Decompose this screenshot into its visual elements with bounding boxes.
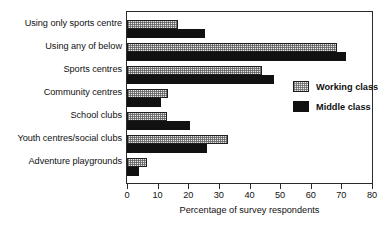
category-label: Sports centres [0,64,122,75]
category-label: Community centres [0,87,122,98]
x-tick-label: 80 [367,190,377,200]
legend-swatch-working-class [293,81,309,92]
bar-middle-class [127,167,139,176]
category-label: Youth centres/social clubs [0,133,122,144]
bar-chart-figure: Using only sports centre Using any of be… [0,0,389,227]
x-tick-mark [311,184,312,189]
x-tick-mark [341,184,342,189]
x-tick-label: 60 [306,190,316,200]
bar-working-class [127,158,147,167]
category-label: Adventure playgrounds [0,156,122,167]
bar-middle-class [127,98,161,107]
legend-item-middle-class: Middle class [293,100,371,113]
bar-middle-class [127,52,346,61]
x-tick-mark [280,184,281,189]
bar-working-class [127,135,228,144]
x-tick-label: 50 [275,190,285,200]
bar-working-class [127,43,337,52]
x-tick-label: 30 [214,190,224,200]
bar-middle-class [127,121,190,130]
x-tick-label: 70 [336,190,346,200]
x-tick-label: 10 [153,190,163,200]
x-tick-mark [127,184,128,189]
x-tick-label: 20 [183,190,193,200]
category-label: School clubs [0,110,122,121]
bar-working-class [127,20,178,29]
x-tick-mark [372,184,373,189]
category-label: Using any of below [0,41,122,52]
legend-swatch-middle-class [293,101,309,112]
bar-middle-class [127,29,205,38]
bar-working-class [127,112,167,121]
bar-middle-class [127,144,207,153]
legend-label: Middle class [316,102,371,112]
x-tick-label: 40 [244,190,254,200]
x-axis-title: Percentage of survey respondents [126,205,373,215]
x-axis: Percentage of survey respondents 0102030… [126,184,373,227]
x-tick-mark [158,184,159,189]
category-axis-labels: Using only sports centre Using any of be… [0,11,122,184]
bar-working-class [127,66,262,75]
x-tick-label: 0 [124,190,129,200]
plot-area: Working class Middle class [126,11,373,184]
bar-middle-class [127,75,274,84]
legend-label: Working class [316,82,378,92]
legend-item-working-class: Working class [293,80,378,93]
category-label: Using only sports centre [0,18,122,29]
x-tick-mark [188,184,189,189]
x-tick-mark [219,184,220,189]
bar-working-class [127,89,168,98]
x-tick-mark [250,184,251,189]
chart-legend: Working class Middle class [293,80,373,116]
